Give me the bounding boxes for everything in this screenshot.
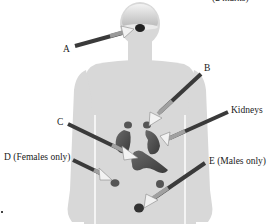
endocrine-diagram: (2 marks) A B Kidneys C D (Females only)… <box>0 0 278 224</box>
label-a: A <box>63 45 70 55</box>
label-e: E (Males only) <box>209 157 266 167</box>
label-c: C <box>57 118 63 128</box>
label-d: D (Females only) <box>4 153 71 163</box>
scan-mark <box>1 211 3 213</box>
body-silhouette <box>68 2 213 224</box>
pituitary-gland <box>135 24 145 32</box>
arrow-a <box>75 26 134 46</box>
testes <box>134 204 144 213</box>
label-kidneys: Kidneys <box>231 106 263 116</box>
marks-text: (2 marks) <box>212 0 249 4</box>
ovary <box>111 179 120 187</box>
label-b: B <box>204 64 210 74</box>
